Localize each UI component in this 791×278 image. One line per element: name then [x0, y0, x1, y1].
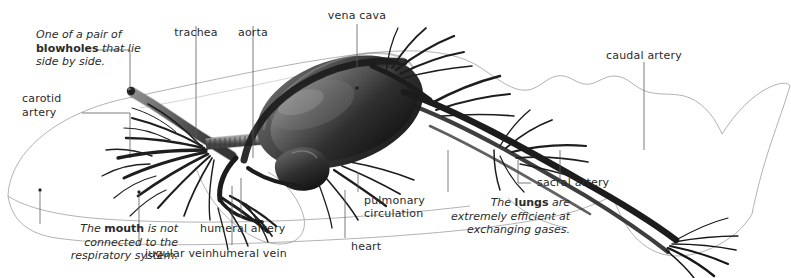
note-lungs-line2: extremely efficient at — [451, 210, 570, 223]
note-mouth-line2: connected to the — [84, 236, 178, 249]
label-sacral-artery: sacral artery — [537, 176, 609, 189]
note-lungs: The lungs are extremely efficient at exc… — [420, 196, 570, 237]
label-humeral-vein: humeral vein — [212, 247, 287, 260]
note-blowholes: One of a pair of blowholes that lie side… — [36, 28, 166, 69]
note-mouth-line1-pre: The — [80, 222, 104, 235]
note-lungs-keyword: lungs — [515, 196, 549, 209]
label-vena-cava: vena cava — [320, 9, 394, 22]
note-blowholes-line2-post: that lie — [99, 42, 141, 55]
label-caudal-artery: caudal artery — [600, 49, 688, 62]
label-aorta: aorta — [228, 26, 278, 39]
anatomy-diagram: trachea aorta vena cava caudal artery sa… — [0, 0, 791, 278]
note-blowholes-line3: side by side. — [36, 55, 105, 68]
note-lungs-line1-pre: The — [491, 196, 515, 209]
note-mouth: The mouth is not connected to the respir… — [28, 222, 178, 263]
note-lungs-line3: exchanging gases. — [467, 223, 570, 236]
note-lungs-line1-post: are — [548, 196, 570, 209]
note-blowholes-keyword: blowholes — [36, 42, 99, 55]
note-mouth-line1-post: is not — [144, 222, 178, 235]
label-heart: heart — [351, 240, 381, 253]
cephalic-vessel-network — [102, 104, 214, 220]
label-carotid-artery-line2: artery — [22, 106, 57, 119]
caudal-artery-fan — [666, 218, 738, 278]
note-mouth-line3: respiratory system. — [71, 249, 178, 262]
label-carotid-artery-line1: carotid — [22, 92, 62, 105]
note-mouth-keyword: mouth — [104, 222, 144, 235]
note-blowholes-line1: One of a pair of — [36, 28, 122, 41]
label-trachea: trachea — [166, 26, 226, 39]
label-pulmonary-circulation-line1: pulmonary — [364, 194, 425, 207]
label-humeral-artery: humeral artery — [200, 222, 285, 235]
label-pulmonary-circulation-line2: circulation — [364, 207, 423, 220]
